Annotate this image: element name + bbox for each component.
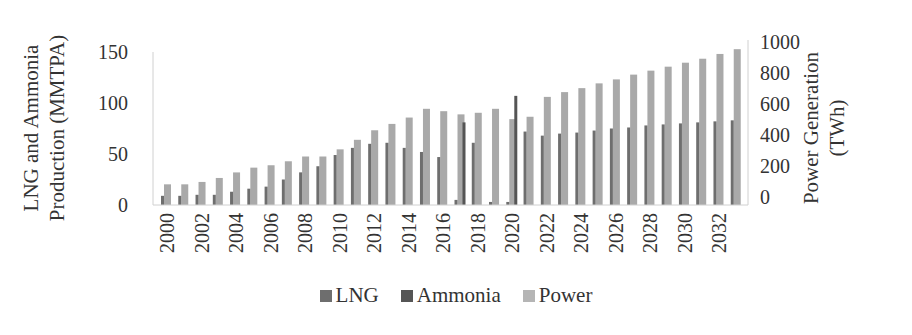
bars	[161, 49, 741, 205]
bar-group	[593, 83, 603, 205]
lng-bar	[644, 125, 647, 205]
power-bar	[199, 182, 206, 205]
legend-label: LNG	[336, 283, 379, 308]
x-tick-label: 2002	[191, 213, 213, 253]
bar-group	[713, 54, 723, 205]
right-tick-label: 600	[760, 93, 790, 115]
lng-bar	[662, 124, 665, 205]
power-bar	[682, 63, 689, 205]
lng-bar	[385, 143, 388, 205]
bar-group	[178, 184, 188, 205]
lng-bar	[265, 187, 268, 205]
power-bar	[250, 168, 257, 205]
x-tick-label: 2018	[467, 213, 489, 253]
x-tick-label: 2032	[708, 213, 730, 253]
power-bar	[164, 184, 171, 205]
bar-group	[524, 117, 534, 205]
x-tick-label: 2022	[536, 213, 558, 253]
power-bar	[699, 59, 706, 205]
lng-bar	[627, 127, 630, 205]
x-tick-label: 2020	[501, 213, 523, 253]
bar-group	[299, 157, 309, 205]
legend-label: Ammonia	[417, 283, 501, 308]
left-axis-title: LNG and AmmoniaProduction (MMTPA)	[19, 35, 69, 222]
legend: LNG Ammonia Power	[0, 283, 912, 308]
x-tick-label: 2000	[156, 213, 178, 253]
right-y-axis: 02004006008001000	[748, 31, 800, 208]
bar-group	[265, 165, 275, 205]
legend-label: Power	[539, 283, 593, 308]
ammonia-bar	[463, 122, 466, 205]
lng-bar	[558, 134, 561, 205]
left-tick-label: 0	[118, 194, 128, 216]
right-tick-label: 1000	[760, 31, 800, 53]
bar-group	[213, 178, 223, 205]
bar-group	[541, 97, 551, 205]
right-tick-label: 400	[760, 124, 790, 146]
ammonia-swatch-icon	[401, 290, 413, 302]
bar-group	[403, 118, 413, 205]
power-bar	[630, 75, 637, 205]
x-tick-label: 2010	[329, 213, 351, 253]
power-bar	[527, 117, 534, 205]
power-bar	[423, 109, 430, 205]
lng-bar	[213, 195, 216, 205]
bar-group	[610, 79, 620, 205]
right-tick-label: 0	[760, 186, 770, 208]
x-tick-label: 2008	[294, 213, 316, 253]
bar-group	[351, 140, 361, 205]
bar-group	[662, 67, 672, 205]
power-bar	[665, 67, 672, 205]
lng-bar	[696, 122, 699, 205]
bar-group	[385, 124, 395, 205]
power-bar	[354, 140, 361, 205]
x-tick-label: 2016	[432, 213, 454, 253]
power-bar	[561, 92, 568, 205]
bar-group	[731, 49, 741, 205]
bar-group	[644, 71, 654, 205]
lng-bar	[437, 157, 440, 205]
bar-group	[437, 111, 447, 205]
bar-group	[334, 149, 344, 205]
lng-bar	[420, 152, 423, 205]
lng-bar	[316, 166, 319, 205]
power-bar	[268, 165, 275, 205]
power-bar	[285, 161, 292, 205]
ammonia-bar	[514, 96, 517, 205]
x-axis: 2000200220042006200820102012201420162018…	[153, 205, 748, 253]
legend-item-power: Power	[523, 283, 593, 308]
bar-group	[455, 114, 466, 205]
lng-bar	[334, 155, 337, 205]
bar-group	[489, 109, 499, 205]
right-axis-title: Power Generation(TWh)	[799, 51, 849, 204]
x-tick-label: 2014	[398, 213, 420, 253]
bar-group	[196, 182, 206, 205]
lng-bar	[575, 133, 578, 205]
bar-group	[161, 184, 171, 205]
bar-group	[506, 96, 517, 205]
bar-group	[627, 75, 637, 205]
lng-bar	[472, 143, 475, 205]
power-bar	[492, 109, 499, 205]
power-bar	[181, 184, 188, 205]
bar-group	[230, 172, 240, 205]
bar-group	[420, 109, 430, 205]
lng-bar	[178, 196, 181, 205]
power-bar	[233, 172, 240, 205]
power-bar	[544, 97, 551, 205]
power-bar	[647, 71, 654, 205]
left-tick-label: 150	[98, 41, 128, 63]
power-bar	[302, 157, 309, 205]
lng-bar	[230, 192, 233, 205]
legend-item-lng: LNG	[320, 283, 379, 308]
x-tick-label: 2006	[260, 213, 282, 253]
bar-group	[575, 88, 585, 205]
power-bar	[734, 49, 741, 205]
power-swatch-icon	[523, 290, 535, 302]
lng-bar	[524, 132, 527, 205]
power-bar	[578, 88, 585, 205]
bar-group	[368, 130, 378, 205]
lng-bar	[299, 172, 302, 205]
lng-bar	[593, 131, 596, 205]
power-bar	[388, 124, 395, 205]
